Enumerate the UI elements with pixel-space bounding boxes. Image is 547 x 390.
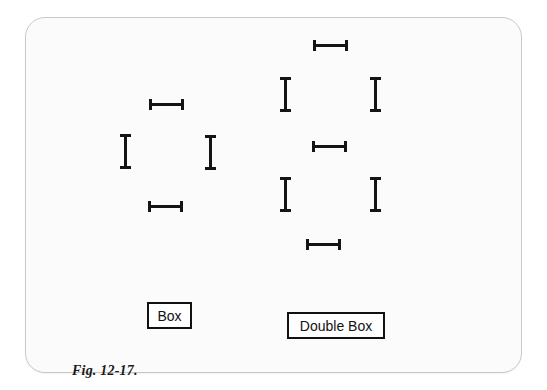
figure-frame: Box Double Box Fig. 12-17. xyxy=(25,17,522,373)
double-box-top-bar-serif-start xyxy=(313,40,316,51)
double-box-upper-right-bar xyxy=(370,77,381,112)
double-box-lower-left-bar-serif-end xyxy=(280,209,291,212)
double-box-upper-left-bar-serif-end xyxy=(280,109,291,112)
double-box-top-bar-serif-end xyxy=(345,40,348,51)
label-box-double-box: Double Box xyxy=(287,312,385,339)
box-left-bar-shaft xyxy=(124,134,127,169)
box-top-bar-serif-end xyxy=(181,99,184,110)
double-box-upper-left-bar-shaft xyxy=(284,77,287,112)
double-box-lower-right-bar-serif-start xyxy=(370,177,381,180)
double-box-middle-bar-serif-end xyxy=(344,141,347,152)
box-left-bar xyxy=(120,134,131,169)
double-box-lower-right-bar-shaft xyxy=(374,177,377,212)
figure-caption: Fig. 12-17. xyxy=(72,363,138,379)
box-bottom-bar xyxy=(148,201,183,212)
double-box-upper-left-bar xyxy=(280,77,291,112)
box-left-bar-serif-start xyxy=(120,134,131,137)
box-right-bar-shaft xyxy=(209,135,212,170)
double-box-bottom-bar-serif-end xyxy=(338,239,341,250)
box-top-bar-serif-start xyxy=(149,99,152,110)
double-box-lower-right-bar-serif-end xyxy=(370,209,381,212)
double-box-upper-right-bar-shaft xyxy=(374,77,377,112)
double-box-top-bar-shaft xyxy=(313,44,348,47)
box-right-bar xyxy=(205,135,216,170)
label-box-double-box-text: Double Box xyxy=(300,319,372,333)
double-box-bottom-bar-shaft xyxy=(306,243,341,246)
box-bottom-bar-serif-end xyxy=(180,201,183,212)
box-left-bar-serif-end xyxy=(120,166,131,169)
box-top-bar xyxy=(149,99,184,110)
box-right-bar-serif-start xyxy=(205,135,216,138)
double-box-upper-left-bar-serif-start xyxy=(280,77,291,80)
double-box-upper-right-bar-serif-start xyxy=(370,77,381,80)
box-right-bar-serif-end xyxy=(205,167,216,170)
box-top-bar-shaft xyxy=(149,103,184,106)
label-box-box-text: Box xyxy=(157,309,181,323)
double-box-bottom-bar xyxy=(306,239,341,250)
label-box-box: Box xyxy=(147,302,192,329)
double-box-lower-left-bar xyxy=(280,177,291,212)
double-box-middle-bar xyxy=(312,141,347,152)
double-box-middle-bar-shaft xyxy=(312,145,347,148)
double-box-middle-bar-serif-start xyxy=(312,141,315,152)
box-bottom-bar-shaft xyxy=(148,205,183,208)
double-box-lower-left-bar-shaft xyxy=(284,177,287,212)
double-box-bottom-bar-serif-start xyxy=(306,239,309,250)
box-bottom-bar-serif-start xyxy=(148,201,151,212)
double-box-upper-right-bar-serif-end xyxy=(370,109,381,112)
double-box-top-bar xyxy=(313,40,348,51)
double-box-lower-right-bar xyxy=(370,177,381,212)
double-box-lower-left-bar-serif-start xyxy=(280,177,291,180)
